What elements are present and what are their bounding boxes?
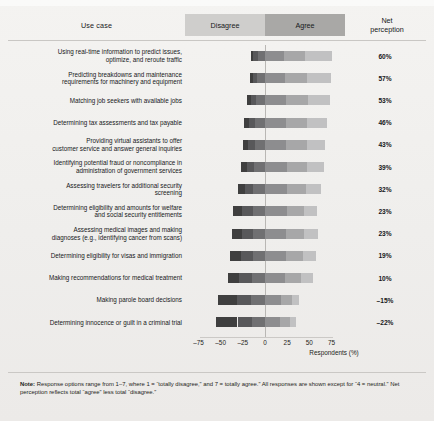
chart-row: Making recommendations for medical treat… bbox=[0, 267, 434, 289]
chart-row: Matching job seekers with available jobs… bbox=[0, 89, 434, 111]
bar-segment-disagree bbox=[242, 206, 253, 216]
header-net-line2: perception bbox=[370, 26, 404, 35]
bar-segment-disagree bbox=[253, 251, 265, 261]
net-perception-value: 23% bbox=[348, 200, 422, 222]
net-perception-value: 46% bbox=[348, 112, 422, 134]
bar-segment-agree bbox=[265, 51, 284, 61]
bar-segment-disagree bbox=[252, 317, 265, 327]
bar-segment-disagree bbox=[237, 295, 251, 305]
bar-segment-agree bbox=[265, 273, 285, 283]
legend-disagree-band: Disagree bbox=[185, 14, 265, 36]
chart-row: Assessing medical images and makingdiagn… bbox=[0, 223, 434, 245]
net-perception-value: 39% bbox=[348, 156, 422, 178]
bar-segment-agree bbox=[265, 162, 287, 172]
net-perception-value: 32% bbox=[348, 178, 422, 200]
bar-segment-agree bbox=[307, 118, 327, 128]
chart-row: Determining eligibility and amounts for … bbox=[0, 200, 434, 222]
chart-row: Identifying potential fraud or noncompli… bbox=[0, 156, 434, 178]
legend-agree-band: Agree bbox=[265, 14, 345, 36]
chart-row: Determining innocence or guilt in a crim… bbox=[0, 311, 434, 333]
bar-segment-agree bbox=[265, 206, 287, 216]
bar-segment-agree bbox=[265, 140, 286, 150]
chart-row: Assessing travelers for additional secur… bbox=[0, 178, 434, 200]
chart-row: Determining eligibility for visas and im… bbox=[0, 245, 434, 267]
chart-row: Determining tax assessments and tax paya… bbox=[0, 112, 434, 134]
bar-segment-disagree bbox=[232, 229, 242, 239]
bar-segment-disagree bbox=[251, 295, 265, 305]
bar-segment-disagree bbox=[233, 206, 242, 216]
bar-segment-agree bbox=[286, 229, 304, 239]
bar-segment-agree bbox=[304, 206, 317, 216]
bar-segment-disagree bbox=[252, 273, 265, 283]
chart-row: Using real-time information to predict i… bbox=[0, 45, 434, 67]
header-divider bbox=[8, 40, 426, 41]
net-perception-value: 43% bbox=[348, 134, 422, 156]
bar-segment-disagree bbox=[253, 184, 265, 194]
bar-segment-agree bbox=[304, 229, 318, 239]
bar-segment-agree bbox=[265, 251, 286, 261]
bar-segment-agree bbox=[307, 140, 326, 150]
chart-plot-area: Using real-time information to predict i… bbox=[0, 45, 434, 337]
bar-segment-agree bbox=[292, 295, 299, 305]
bar-segment-agree bbox=[285, 273, 301, 283]
x-axis: –75–50–250255075 Respondents (%) bbox=[0, 337, 434, 359]
bar-segment-agree bbox=[286, 118, 306, 128]
x-axis-tick: 75 bbox=[317, 339, 347, 346]
footnote: Note: Response options range from 1–7, w… bbox=[20, 380, 420, 396]
bar-segment-agree bbox=[286, 140, 306, 150]
bar-segment-disagree bbox=[216, 317, 237, 327]
net-perception-value: 57% bbox=[348, 67, 422, 89]
bar-segment-agree bbox=[265, 317, 280, 327]
net-perception-value: –15% bbox=[348, 289, 422, 311]
chart-row: Predicting breakdowns and maintenancereq… bbox=[0, 67, 434, 89]
header-use-case: Use case bbox=[8, 14, 185, 36]
bar-segment-disagree bbox=[242, 229, 253, 239]
bar-segment-agree bbox=[265, 184, 287, 194]
bar-segment-agree bbox=[307, 73, 331, 83]
bar-segment-disagree bbox=[255, 118, 265, 128]
bar-segment-agree bbox=[265, 229, 286, 239]
bar-segment-agree bbox=[280, 317, 290, 327]
net-perception-value: 60% bbox=[348, 45, 422, 67]
chart-row: Making parole board decisions–15% bbox=[0, 289, 434, 311]
bar-segment-agree bbox=[303, 251, 316, 261]
note-divider bbox=[8, 372, 426, 373]
bar-segment-agree bbox=[305, 51, 332, 61]
x-axis-line bbox=[200, 337, 333, 338]
bar-segment-agree bbox=[286, 251, 303, 261]
top-border bbox=[0, 0, 434, 6]
x-axis-label: Respondents (%) bbox=[264, 349, 404, 356]
net-perception-value: 53% bbox=[348, 89, 422, 111]
bar-segment-disagree bbox=[218, 295, 237, 305]
bar-segment-disagree bbox=[257, 73, 265, 83]
bar-segment-agree bbox=[308, 95, 329, 105]
bar-segment-disagree bbox=[247, 162, 254, 172]
bar-segment-agree bbox=[287, 184, 306, 194]
bar-segment-disagree bbox=[248, 140, 255, 150]
bar-segment-agree bbox=[287, 206, 304, 216]
bar-segment-disagree bbox=[245, 184, 254, 194]
bar-segment-disagree bbox=[239, 273, 251, 283]
bar-segment-agree bbox=[301, 273, 313, 283]
bar-segment-disagree bbox=[253, 206, 265, 216]
header-net-perception: Net perception bbox=[348, 14, 426, 38]
bar-segment-agree bbox=[265, 73, 285, 83]
bar-segment-agree bbox=[265, 95, 286, 105]
bar-segment-agree bbox=[307, 162, 324, 172]
footnote-text: Response options range from 1–7, where 1… bbox=[20, 381, 399, 395]
bar-segment-disagree bbox=[230, 251, 241, 261]
bar-segment-agree bbox=[265, 118, 286, 128]
bar-segment-disagree bbox=[253, 229, 265, 239]
bar-segment-disagree bbox=[254, 162, 265, 172]
bar-segment-disagree bbox=[256, 95, 265, 105]
footnote-prefix: Note: bbox=[20, 381, 35, 387]
net-perception-value: 10% bbox=[348, 267, 422, 289]
bar-segment-agree bbox=[281, 295, 292, 305]
bar-segment-disagree bbox=[258, 51, 265, 61]
chart-header: Use case Disagree Agree Net perception bbox=[0, 14, 434, 36]
bar-segment-agree bbox=[286, 95, 308, 105]
bar-segment-agree bbox=[265, 295, 281, 305]
net-perception-value: –22% bbox=[348, 311, 422, 333]
net-perception-value: 19% bbox=[348, 245, 422, 267]
bar-segment-agree bbox=[285, 73, 307, 83]
